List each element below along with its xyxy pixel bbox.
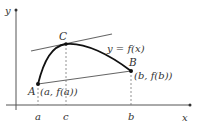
tick-label-a: a — [35, 111, 41, 122]
mvt-diagram: y x C y = f(x) B (b, f(b)) A (a, f(a)) a… — [0, 0, 198, 125]
point-c-label: C — [59, 30, 67, 42]
point-b-label: B — [128, 56, 137, 68]
y-axis-arrow-icon — [15, 9, 18, 12]
point-b — [129, 69, 133, 73]
curve-label: y = f(x) — [106, 43, 145, 54]
tangent-line — [31, 34, 112, 51]
point-a-coord-label: (a, f(a)) — [40, 86, 78, 97]
x-axis-label: x — [182, 112, 188, 123]
tick-label-b: b — [128, 111, 134, 122]
secant-line — [38, 71, 131, 84]
y-axis-label: y — [4, 5, 11, 16]
x-axis-arrow-icon — [189, 104, 192, 107]
point-a-label: A — [27, 85, 36, 97]
tick-label-c: c — [63, 111, 69, 122]
point-b-coord-label: (b, f(b)) — [134, 70, 173, 81]
point-c — [64, 42, 68, 46]
